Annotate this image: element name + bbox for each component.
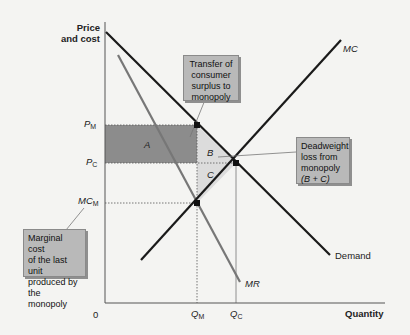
marginal-line-3: produced by xyxy=(28,277,81,288)
area-c xyxy=(197,163,236,203)
marginal-cost-callout: Marginal cost of the last unit produced … xyxy=(23,229,86,277)
region-c-label: C xyxy=(207,170,214,180)
deadweight-line-2: loss from xyxy=(301,152,345,163)
qc-label: QC xyxy=(230,309,242,320)
transfer-callout: Transfer of consumer surplus to monopoly xyxy=(183,55,239,101)
deadweight-line-3: monopoly xyxy=(301,163,345,174)
pc-sub: C xyxy=(92,161,97,168)
transfer-line-2: consumer xyxy=(188,70,234,81)
mc-monopoly-point xyxy=(194,200,200,206)
y-axis-title: Price and cost xyxy=(50,22,100,44)
deadweight-line-1: Deadweight xyxy=(301,141,345,152)
marginal-line-4: the monopoly xyxy=(28,288,81,310)
marginal-line-1: Marginal cost xyxy=(28,233,81,255)
competitive-point xyxy=(233,160,239,166)
deadweight-callout: Deadweight loss from monopoly (B + C) xyxy=(296,137,350,184)
transfer-line-3: surplus to xyxy=(188,81,234,92)
y-axis-title-line1: Price xyxy=(50,22,100,33)
origin-label: 0 xyxy=(93,310,98,320)
mcm-text: MC xyxy=(78,195,93,206)
transfer-line-4: monopoly xyxy=(188,92,234,103)
deadweight-line-4: (B + C) xyxy=(301,174,345,185)
transfer-line-1: Transfer of xyxy=(188,59,234,70)
area-b xyxy=(197,125,236,163)
monopoly-deadweight-loss-diagram: Price and cost Quantity 0 PM PC MCM QM Q… xyxy=(0,0,410,335)
x-axis-title: Quantity xyxy=(345,308,384,319)
mc-curve-label: MC xyxy=(343,44,358,54)
pm-sub: M xyxy=(90,123,96,130)
pc-label: PC xyxy=(86,157,97,168)
area-a xyxy=(105,125,197,163)
marginal-leader xyxy=(66,208,84,230)
marginal-line-2: of the last unit xyxy=(28,255,81,277)
qm-sub: M xyxy=(198,313,204,320)
pm-label: PM xyxy=(84,119,96,130)
region-a-label: A xyxy=(144,140,150,150)
mr-curve-label: MR xyxy=(245,279,260,289)
demand-curve-label: Demand xyxy=(335,251,371,261)
monopoly-price-point xyxy=(194,122,200,128)
y-axis-title-line2: and cost xyxy=(50,33,100,44)
mcm-label: MCM xyxy=(78,196,99,207)
qc-sub: C xyxy=(237,313,242,320)
qm-label: QM xyxy=(191,309,204,320)
mcm-sub: M xyxy=(93,200,99,207)
region-b-label: B xyxy=(207,148,213,158)
